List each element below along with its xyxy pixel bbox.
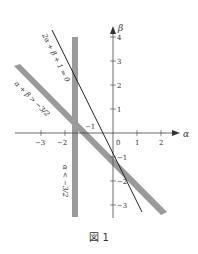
line-equation-label: 2α + β + 1 = 0 (40, 31, 72, 83)
figure: α β −3 −2 0 1 2 4 3 2 1 −1 −2 −3 −1 2α +… (0, 0, 198, 254)
alpha-tick-label: 2 (159, 139, 163, 147)
alpha-axis-label: α (183, 129, 189, 139)
beta-tick-label: −2 (117, 178, 127, 186)
beta-tick-label: 2 (117, 82, 121, 90)
alpha-tick-label: 1 (135, 139, 139, 147)
beta-tick-label: 1 (117, 106, 121, 114)
alpha-tick-label: −2 (57, 139, 67, 147)
vertical-band-label: α < −3/2 (61, 165, 69, 198)
intersection-label: −1 (85, 123, 95, 131)
beta-axis-label: β (117, 23, 123, 33)
alpha-tick-label: −3 (35, 139, 45, 147)
beta-tick-label: 3 (117, 58, 121, 66)
figure-caption: 図 1 (0, 229, 198, 244)
beta-tick-label: 4 (117, 34, 122, 42)
beta-tick-label: −1 (117, 154, 127, 162)
beta-axis-arrow-icon (110, 26, 116, 34)
alpha-axis-arrow-icon (172, 130, 180, 136)
beta-tick-label: −3 (117, 202, 127, 210)
diagonal-band-label: α + β > −3/2 (13, 80, 52, 119)
alpha-tick-label: 0 (116, 139, 120, 147)
